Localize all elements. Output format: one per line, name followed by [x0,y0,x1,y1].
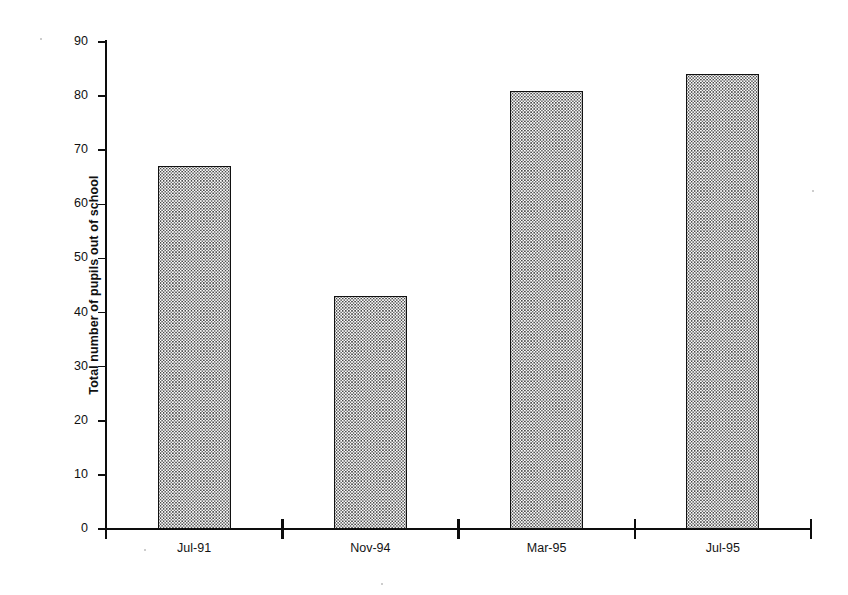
y-axis-tick-label: 90 [52,34,88,48]
y-axis-tick-label: 20 [52,413,88,427]
bar-chart: Total number of pupils out of school 010… [0,0,848,595]
y-axis-tick-label-wrap: 20 [52,421,88,422]
y-axis-tick [98,474,107,476]
bar-mar-95 [510,91,583,529]
bar-jul-95 [686,74,759,529]
y-axis-title: Total number of pupils out of school [87,125,101,445]
x-axis-tick [281,519,284,539]
y-axis-tick-label-wrap: 30 [52,367,88,368]
y-axis-tick [98,149,107,151]
y-axis-tick [98,420,107,422]
x-axis-tick [634,519,637,539]
y-axis-tick-label-wrap: 0 [52,529,88,530]
bar-nov-94 [334,296,407,529]
bar-jul-91 [158,166,231,529]
x-axis-tick [457,519,460,539]
y-axis-tick [98,204,107,206]
y-axis-tick-label-wrap: 60 [52,204,88,205]
y-axis-tick-label-wrap: 10 [52,475,88,476]
y-axis-tick-label-wrap: 90 [52,42,88,43]
y-axis-line [105,40,107,531]
scan-speck [40,38,42,40]
y-axis-tick-label: 0 [52,521,88,535]
y-axis-tick [98,41,107,43]
y-axis-tick-label: 60 [52,196,88,210]
y-axis-tick [98,366,107,368]
x-axis-tick [105,519,108,539]
y-axis-tick-label: 40 [52,305,88,319]
scan-speck [381,583,383,585]
scan-speck [812,190,814,192]
x-axis-tick-label: Jul-95 [653,541,793,555]
x-axis-tick [810,519,813,539]
y-axis-tick-label-wrap: 40 [52,313,88,314]
y-axis-tick [98,258,107,260]
y-axis-tick [98,95,107,97]
y-axis-tick-label: 70 [52,142,88,156]
y-axis-tick-label: 30 [52,359,88,373]
y-axis-tick-label-wrap: 80 [52,96,88,97]
x-axis-tick-label: Nov-94 [300,541,440,555]
y-axis-tick [98,312,107,314]
x-axis-tick-label: Jul-91 [124,541,264,555]
x-axis-tick-label: Mar-95 [477,541,617,555]
y-axis-tick-label-wrap: 50 [52,258,88,259]
scan-speck [144,549,146,551]
y-axis-tick-label: 50 [52,250,88,264]
y-axis-tick-label: 10 [52,467,88,481]
y-axis-tick-label: 80 [52,88,88,102]
y-axis-tick-label-wrap: 70 [52,150,88,151]
